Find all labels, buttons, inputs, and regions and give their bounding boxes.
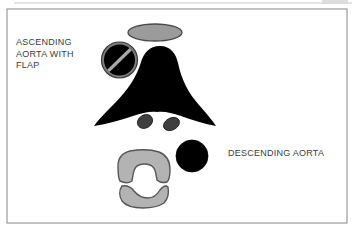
label-descending-aorta: DESCENDING AORTA — [228, 148, 324, 160]
spinous-process — [120, 186, 169, 208]
corner-smudge-artifact — [322, 0, 348, 4]
vertebral-body — [118, 150, 170, 183]
paravertebral-nodule-right — [161, 115, 182, 134]
descending-aorta-circle — [176, 140, 208, 172]
sternum-ellipse — [128, 24, 182, 41]
paravertebral-nodule-left — [135, 112, 155, 132]
figure-canvas: ASCENDING AORTA WITH FLAP DESCENDING AOR… — [0, 0, 355, 236]
anatomy-illustration — [0, 0, 355, 236]
label-ascending-aorta-with-flap: ASCENDING AORTA WITH FLAP — [16, 37, 74, 72]
